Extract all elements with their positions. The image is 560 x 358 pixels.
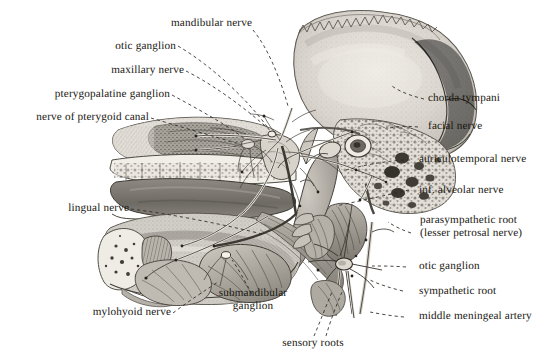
label-parasympathetic-root-line1: parasympathetic root [420,214,517,226]
label-middle-meningeal-artery: middle meningeal artery [419,310,532,322]
label-mylohyoid-nerve: mylohyoid nerve [32,306,171,318]
label-sensory-roots: sensory roots [258,337,368,349]
label-inf-alveolar-nerve: inf. alveolar nerve [419,184,504,196]
label-facial-nerve: facial nerve [428,120,482,132]
label-chorda-tympani: chorda tympani [428,92,500,104]
label-parasympathetic-root-line2: (lesser petrosal nerve) [420,227,522,239]
label-sympathetic-root: sympathetic root [419,285,496,297]
label-maxillary-nerve: maxillary nerve [20,64,184,76]
label-submandibular-ganglion: submandibular ganglion [200,287,306,313]
upper-teeth [112,214,286,268]
label-mandibular-nerve: mandibular nerve [60,17,252,29]
label-otic-ganglion-inset: otic ganglion [419,260,480,272]
anatomical-plate: mandibular nerve otic ganglion maxillary… [0,0,560,358]
label-otic-ganglion-top: otic ganglion [20,40,176,52]
label-auriculotemporal-nerve: auriculotemporal nerve [419,153,526,165]
label-parasympathetic-root: parasympathetic root (lesser petrosal ne… [420,214,560,240]
label-pterygopalatine-ganglion: pterygopalatine ganglion [2,88,170,100]
nerve-plexus [144,108,387,286]
mandible [96,128,343,310]
label-submandibular-ganglion-line1: submandibular [219,287,287,299]
label-nerve-of-pterygoid-canal: nerve of pterygoid canal [2,111,149,123]
otic-ganglion-inset-artwork [292,203,394,318]
label-lingual-nerve: lingual nerve [10,202,129,214]
label-submandibular-ganglion-line2: ganglion [233,300,273,312]
